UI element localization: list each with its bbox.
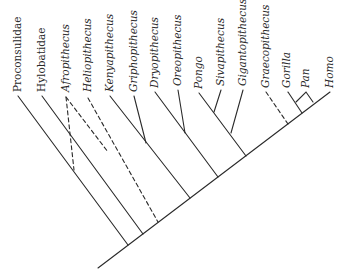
label-sivapithecus: Sivapithecus bbox=[214, 17, 226, 86]
label-oreopithecus: Oreopithecus bbox=[171, 14, 183, 86]
branch-kenyapithecus bbox=[110, 96, 190, 198]
branch-afropithecus-a bbox=[66, 97, 74, 170]
trunk bbox=[98, 92, 330, 268]
label-gorilla: Gorilla bbox=[280, 52, 292, 88]
branch-heliopithecus bbox=[88, 98, 158, 222]
label-afropithecus: Afropithecus bbox=[59, 23, 71, 93]
label-kenyapithecus: Kenyapithecus bbox=[103, 13, 115, 93]
branch-gorilla bbox=[288, 92, 302, 113]
branch-pan bbox=[296, 92, 313, 102]
branch-griphopithecus bbox=[134, 96, 146, 143]
branch-afropithecus-b bbox=[66, 97, 108, 152]
label-gigantopithecus: Gigantopithecus bbox=[236, 0, 248, 86]
label-hylobatidae: Hylobatidae bbox=[35, 27, 47, 92]
label-proconsulidae: Proconsulidae bbox=[11, 17, 23, 92]
label-griphopithecus: Griphopithecus bbox=[127, 10, 139, 92]
taxon-labels: Proconsulidae Hylobatidae Afropithecus H… bbox=[11, 0, 335, 93]
label-pongo: Pongo bbox=[192, 56, 204, 90]
label-dryopithecus: Dryopithecus bbox=[148, 16, 160, 89]
branch-hylobatidae bbox=[42, 96, 143, 234]
branch-gigantopithecus bbox=[231, 90, 243, 133]
label-pan: Pan bbox=[299, 68, 311, 89]
branch-oreopithecus bbox=[178, 90, 185, 133]
label-homo: Homo bbox=[323, 56, 335, 89]
label-graecopithecus: Graecopithecus bbox=[259, 4, 271, 88]
branch-pongo bbox=[199, 93, 246, 156]
branch-proconsulidae bbox=[18, 96, 128, 245]
label-heliopithecus: Heliopithecus bbox=[81, 18, 93, 93]
cladogram: Proconsulidae Hylobatidae Afropithecus H… bbox=[0, 0, 350, 280]
branch-dryopithecus bbox=[155, 92, 218, 177]
branch-sivapithecus bbox=[214, 90, 221, 112]
branch-graecopithecus bbox=[266, 92, 288, 124]
